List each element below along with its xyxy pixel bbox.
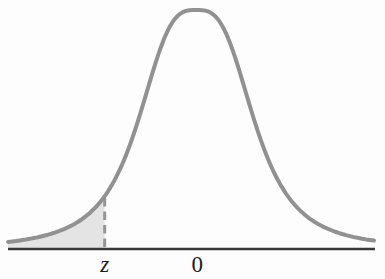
- z-axis-label: z: [85, 252, 125, 277]
- distribution-plot: [0, 0, 385, 279]
- normal-curve-figure: z 0: [0, 0, 385, 279]
- zero-axis-label: 0: [177, 252, 217, 277]
